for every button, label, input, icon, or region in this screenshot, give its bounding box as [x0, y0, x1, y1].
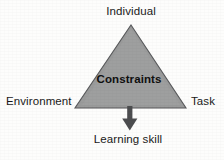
- label-learning-skill: Learning skill: [0, 134, 224, 146]
- label-constraints-text: Constraints: [97, 73, 162, 85]
- arrow-head: [122, 119, 137, 131]
- label-learning-skill-text: Learning skill: [94, 133, 163, 145]
- constraints-diagram: Individual Environment Task Constraints …: [0, 0, 224, 160]
- triangle-inner-shading: [82, 29, 180, 105]
- label-individual: Individual: [0, 6, 224, 18]
- label-environment: Environment: [6, 96, 72, 108]
- label-task: Task: [191, 96, 215, 108]
- label-constraints: Constraints: [0, 74, 224, 86]
- label-individual-text: Individual: [106, 5, 156, 17]
